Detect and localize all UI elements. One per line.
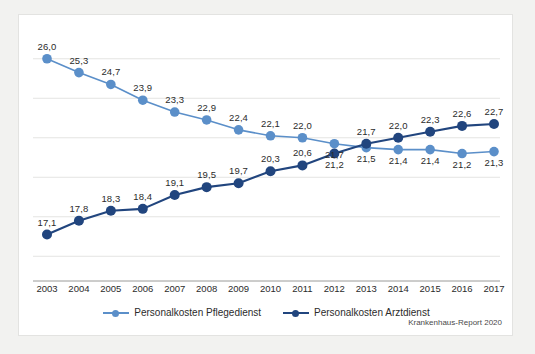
- data-label: 19,7: [229, 165, 248, 176]
- data-label: 21,4: [421, 155, 440, 166]
- data-label: 21,7: [357, 126, 376, 137]
- data-label: 21,4: [389, 155, 408, 166]
- data-label: 20,3: [261, 153, 280, 164]
- data-label: 18,4: [133, 191, 152, 202]
- data-label: 22,3: [421, 114, 440, 125]
- chart-figure: 26,025,324,723,923,322,922,422,122,021,7…: [18, 14, 513, 336]
- x-tick-label: 2003: [36, 283, 57, 294]
- x-tick-label: 2010: [260, 283, 281, 294]
- x-tick-label: 2009: [228, 283, 249, 294]
- data-label: 20,6: [293, 147, 312, 158]
- data-label: 21,5: [357, 153, 376, 164]
- data-label: 26,0: [38, 41, 57, 52]
- legend-label-arztdienst: Personalkosten Arztdienst: [314, 307, 430, 318]
- x-tick-label: 2008: [196, 283, 217, 294]
- data-label: 21,2: [325, 159, 344, 170]
- legend-item-arztdienst[interactable]: Personalkosten Arztdienst: [283, 307, 430, 318]
- x-tick-label: 2016: [451, 283, 472, 294]
- x-axis-tick-labels: 2003200420052006200720082009201020112012…: [33, 283, 500, 301]
- data-label: 22,9: [197, 102, 216, 113]
- data-label: 22,0: [293, 120, 312, 131]
- data-label: 21,3: [485, 157, 504, 168]
- legend-marker-arztdienst-icon: [283, 308, 309, 318]
- x-tick-label: 2007: [164, 283, 185, 294]
- chart-plot-area: 26,025,324,723,923,322,922,422,122,021,7…: [33, 25, 500, 282]
- legend-item-pflegedienst[interactable]: Personalkosten Pflegedienst: [103, 307, 261, 318]
- data-label: 19,5: [197, 169, 216, 180]
- legend-marker-pflegedienst-icon: [103, 308, 129, 318]
- data-label: 22,6: [453, 108, 472, 119]
- data-label: 23,9: [133, 82, 152, 93]
- x-tick-label: 2005: [100, 283, 121, 294]
- data-label: 17,1: [38, 217, 57, 228]
- x-tick-label: 2012: [324, 283, 345, 294]
- data-label: 24,7: [101, 66, 120, 77]
- data-label: 25,3: [69, 55, 88, 66]
- x-tick-label: 2015: [420, 283, 441, 294]
- data-label: 22,7: [485, 106, 504, 117]
- source-note: Krankenhaus-Report 2020: [408, 318, 502, 327]
- data-label: 22,0: [389, 120, 408, 131]
- data-label: 18,3: [101, 193, 120, 204]
- data-label: 22,4: [229, 112, 248, 123]
- data-label: 21,2: [453, 159, 472, 170]
- data-label: 23,3: [165, 94, 184, 105]
- x-tick-label: 2004: [68, 283, 89, 294]
- legend-label-pflegedienst: Personalkosten Pflegedienst: [134, 307, 261, 318]
- data-label: 22,1: [261, 118, 280, 129]
- data-label: 19,1: [165, 177, 184, 188]
- x-tick-label: 2014: [388, 283, 409, 294]
- data-label: 17,8: [69, 203, 88, 214]
- x-tick-label: 2013: [356, 283, 377, 294]
- chart-legend: Personalkosten Pflegedienst Personalkost…: [19, 307, 514, 318]
- x-tick-label: 2006: [132, 283, 153, 294]
- x-tick-label: 2011: [292, 283, 312, 294]
- x-tick-label: 2017: [483, 283, 504, 294]
